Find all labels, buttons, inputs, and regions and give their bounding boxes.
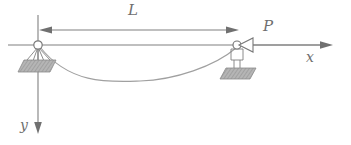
right-support-ground bbox=[220, 68, 256, 79]
left-support-ground bbox=[18, 60, 56, 72]
left-pin-hinge bbox=[34, 41, 42, 49]
y-axis-label: y bbox=[20, 118, 28, 132]
beam-diagram bbox=[0, 0, 351, 145]
x-axis-label: x bbox=[306, 50, 314, 64]
span-label: L bbox=[128, 3, 138, 18]
diagram-background bbox=[0, 0, 351, 145]
load-label: P bbox=[263, 19, 273, 34]
